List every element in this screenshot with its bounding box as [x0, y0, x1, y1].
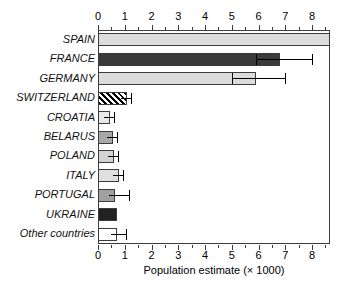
bar: [98, 53, 280, 66]
category-label: SPAIN: [63, 34, 95, 45]
x-tick-major: [152, 25, 153, 30]
x-tick-major: [98, 25, 99, 30]
error-bar-cap: [129, 190, 130, 201]
error-bar-cap: [126, 229, 127, 240]
x-tick-minor: [325, 245, 326, 248]
error-bar-line: [104, 117, 113, 118]
x-tick-minor: [272, 245, 273, 248]
x-tick-major: [312, 25, 313, 30]
category-label: CROATIA: [47, 112, 95, 123]
x-axis-bottom: 012345678: [98, 244, 330, 245]
error-bar-line: [232, 78, 286, 79]
x-tick-minor: [111, 245, 112, 248]
x-tick-label: 1: [115, 11, 135, 22]
x-tick-label: 0: [88, 11, 108, 22]
x-tick-major: [232, 25, 233, 30]
error-bar-line: [121, 98, 131, 99]
x-tick-minor: [218, 27, 219, 30]
x-tick-minor: [218, 245, 219, 248]
x-tick-label: 2: [142, 11, 162, 22]
error-bar-cap: [312, 54, 313, 65]
bar-chart: 012345678 012345678 SPAINFRANCEGERMANYSW…: [0, 0, 347, 289]
x-tick-label: 4: [195, 250, 215, 261]
bar: [98, 33, 330, 46]
x-tick-minor: [138, 27, 139, 30]
x-tick-minor: [299, 27, 300, 30]
category-label: Other countries: [20, 228, 95, 239]
x-tick-label: 5: [222, 11, 242, 22]
x-tick-label: 3: [168, 11, 188, 22]
x-tick-label: 2: [142, 250, 162, 261]
x-tick-minor: [165, 245, 166, 248]
x-tick-minor: [245, 245, 246, 248]
x-tick-minor: [325, 27, 326, 30]
x-tick-minor: [272, 27, 273, 30]
x-tick-major: [205, 25, 206, 30]
x-tick-label: 1: [115, 250, 135, 261]
x-tick-major: [125, 25, 126, 30]
error-bar-line: [111, 234, 126, 235]
x-tick-minor: [138, 245, 139, 248]
x-tick-label: 8: [302, 250, 322, 261]
x-tick-label: 7: [275, 250, 295, 261]
x-tick-label: 6: [249, 11, 269, 22]
error-bar-cap: [232, 73, 233, 84]
x-tick-major: [259, 25, 260, 30]
x-tick-label: 0: [88, 250, 108, 261]
error-bar-line: [113, 175, 123, 176]
error-bar-cap: [131, 93, 132, 104]
category-label: BELARUS: [44, 131, 95, 142]
x-tick-label: 4: [195, 11, 215, 22]
category-label: UKRAINE: [46, 209, 95, 220]
bar: [98, 208, 117, 221]
x-tick-label: 7: [275, 11, 295, 22]
x-tick-minor: [192, 27, 193, 30]
x-tick-label: 8: [302, 11, 322, 22]
x-axis-title: Population estimate (× 1000): [98, 264, 330, 276]
category-label: FRANCE: [50, 53, 95, 64]
category-label: ITALY: [66, 170, 95, 181]
error-bar-cap: [118, 151, 119, 162]
x-tick-major: [285, 25, 286, 30]
x-tick-major: [178, 25, 179, 30]
error-bar-line: [108, 156, 118, 157]
x-tick-label: 6: [249, 250, 269, 261]
error-bar-cap: [123, 170, 124, 181]
x-axis-top: 012345678: [98, 30, 330, 31]
x-tick-label: 3: [168, 250, 188, 261]
error-bar-line: [107, 137, 118, 138]
error-bar-line: [256, 59, 312, 60]
x-tick-minor: [192, 245, 193, 248]
category-label: GERMANY: [39, 73, 95, 84]
x-tick-minor: [299, 245, 300, 248]
error-bar-line: [109, 195, 128, 196]
error-bar-cap: [256, 54, 257, 65]
category-label: SWITZERLAND: [16, 92, 95, 103]
category-label: PORTUGAL: [35, 189, 95, 200]
x-tick-minor: [111, 27, 112, 30]
error-bar-cap: [117, 132, 118, 143]
x-tick-label: 5: [222, 250, 242, 261]
error-bar-cap: [285, 73, 286, 84]
error-bar-cap: [114, 112, 115, 123]
x-tick-minor: [245, 27, 246, 30]
category-label: POLAND: [50, 150, 95, 161]
x-tick-minor: [165, 27, 166, 30]
